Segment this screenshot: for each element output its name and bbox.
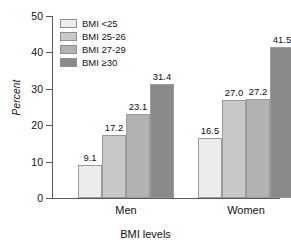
legend-label: BMI <25 — [82, 19, 118, 29]
y-tick-label: 20 — [31, 119, 43, 131]
y-tick-mark — [46, 162, 52, 163]
x-group-label: Women — [227, 204, 265, 216]
y-tick-mark — [46, 125, 52, 126]
bar — [150, 84, 174, 198]
x-group-label: Men — [115, 204, 136, 216]
legend-item: BMI <25 — [60, 18, 126, 30]
y-tick-label: 0 — [37, 192, 43, 204]
bar — [270, 47, 291, 198]
legend-item: BMI 27-29 — [60, 44, 126, 56]
bar-chart-figure: Percent 01020304050 9.117.223.131.416.52… — [0, 0, 291, 248]
y-axis-title: Percent — [11, 68, 22, 128]
bar-value-label: 16.5 — [201, 125, 220, 136]
bar-value-label: 27.2 — [249, 86, 268, 97]
y-tick-mark — [46, 198, 52, 199]
bar — [222, 100, 246, 198]
y-tick-mark — [46, 52, 52, 53]
legend-swatch — [60, 19, 77, 28]
bar-value-label: 9.1 — [83, 152, 96, 163]
bar — [246, 99, 270, 198]
y-tick-label: 10 — [31, 156, 43, 168]
legend-item: BMI ≥30 — [60, 57, 126, 69]
bar-value-label: 17.2 — [105, 122, 124, 133]
bar-value-label: 27.0 — [225, 87, 244, 98]
legend-swatch — [60, 32, 77, 41]
x-axis-title: BMI levels — [0, 228, 291, 240]
y-axis-line — [52, 16, 53, 199]
legend: BMI <25BMI 25-26BMI 27-29BMI ≥30 — [60, 18, 126, 70]
legend-label: BMI 25-26 — [82, 32, 126, 42]
x-axis-line — [52, 198, 280, 199]
bar-value-label: 23.1 — [129, 101, 148, 112]
legend-label: BMI ≥30 — [82, 58, 117, 68]
bar-value-label: 31.4 — [153, 71, 172, 82]
y-tick-label: 50 — [31, 10, 43, 22]
bar — [102, 135, 126, 198]
y-tick-label: 40 — [31, 46, 43, 58]
bar — [78, 165, 102, 198]
y-tick-label: 30 — [31, 83, 43, 95]
y-tick-mark — [46, 89, 52, 90]
legend-label: BMI 27-29 — [82, 45, 126, 55]
legend-swatch — [60, 45, 77, 54]
bar — [198, 138, 222, 198]
legend-item: BMI 25-26 — [60, 31, 126, 43]
legend-swatch — [60, 58, 77, 67]
bar-value-label: 41.5 — [273, 34, 291, 45]
bar — [126, 114, 150, 198]
y-tick-mark — [46, 16, 52, 17]
